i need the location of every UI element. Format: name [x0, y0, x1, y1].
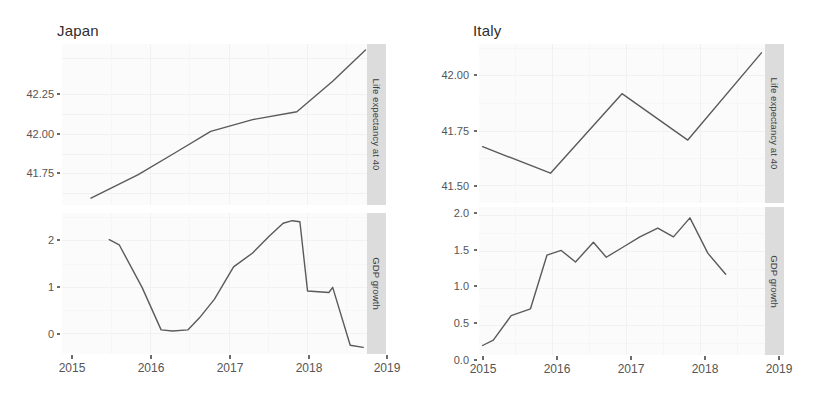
strip-label-text: Life expectancy at 40 [371, 79, 382, 171]
ytick-mark [474, 185, 477, 187]
strip-label-text: Life expectancy at 40 [769, 78, 780, 170]
xtick-label: 2015 [453, 363, 513, 375]
xtick-label: 2016 [121, 362, 181, 374]
ytick-label: 2.0 [421, 208, 469, 219]
panel-italy-gdp-growth [479, 207, 765, 355]
facet-title-japan: Japan [57, 22, 99, 39]
strip-label-gdp-growth-italy: GDP growth [765, 207, 784, 355]
facet-column-italy: Italy Life expectancy at 40 42.00 4 [419, 0, 838, 401]
series-japan-life-expectancy [62, 44, 367, 205]
xtick-mark [386, 355, 388, 359]
xtick-mark [482, 356, 484, 360]
ytick-label: 1 [6, 282, 54, 293]
xtick-mark [150, 355, 152, 359]
xtick-label: 2017 [601, 363, 661, 375]
panel-japan-gdp-growth [62, 213, 367, 354]
ytick-label: 0.5 [421, 318, 469, 329]
strip-label-text: GDP growth [371, 257, 382, 310]
ytick-mark [57, 133, 60, 135]
ytick-label: 1.5 [421, 245, 469, 256]
ytick-mark [474, 249, 477, 251]
series-japan-gdp-growth [62, 213, 367, 354]
facet-title-italy: Italy [473, 22, 502, 39]
xtick-mark [71, 355, 73, 359]
strip-label-life-expectancy-japan: Life expectancy at 40 [367, 44, 386, 205]
ytick-label: 42.25 [6, 89, 54, 100]
xtick-mark [778, 356, 780, 360]
xtick-label: 2016 [527, 363, 587, 375]
xtick-label: 2018 [279, 362, 339, 374]
ytick-mark [474, 359, 477, 361]
ytick-label: 41.50 [421, 181, 469, 192]
xtick-mark [704, 356, 706, 360]
panel-italy-life-expectancy [479, 44, 765, 203]
series-italy-life-expectancy [479, 44, 765, 203]
ytick-label: 41.75 [421, 126, 469, 137]
xtick-mark [308, 355, 310, 359]
ytick-label: 0 [6, 329, 54, 340]
ytick-label: 2 [6, 235, 54, 246]
strip-label-text: GDP growth [769, 255, 780, 308]
ytick-mark [57, 333, 60, 335]
ytick-mark [57, 239, 60, 241]
ytick-label: 42.00 [421, 70, 469, 81]
strip-label-life-expectancy-italy: Life expectancy at 40 [765, 44, 784, 203]
xtick-mark [630, 356, 632, 360]
xtick-mark [229, 355, 231, 359]
ytick-mark [474, 130, 477, 132]
facet-column-japan: Japan Life expectancy at 40 42.25 [0, 0, 419, 401]
strip-label-gdp-growth-japan: GDP growth [367, 213, 386, 354]
ytick-mark [57, 172, 60, 174]
ytick-mark [474, 212, 477, 214]
xtick-label: 2019 [357, 362, 417, 374]
xtick-label: 2017 [200, 362, 260, 374]
faceted-line-chart-figure: Japan Life expectancy at 40 42.25 [0, 0, 838, 401]
ytick-label: 41.75 [6, 168, 54, 179]
ytick-mark [474, 285, 477, 287]
ytick-mark [57, 93, 60, 95]
xtick-mark [556, 356, 558, 360]
ytick-mark [474, 322, 477, 324]
ytick-mark [57, 286, 60, 288]
panel-japan-life-expectancy [62, 44, 367, 205]
ytick-label: 1.0 [421, 281, 469, 292]
series-italy-gdp-growth [479, 207, 765, 355]
ytick-mark [474, 74, 477, 76]
xtick-label: 2015 [42, 362, 102, 374]
xtick-label: 2019 [749, 363, 809, 375]
xtick-label: 2018 [675, 363, 735, 375]
ytick-label: 42.00 [6, 129, 54, 140]
